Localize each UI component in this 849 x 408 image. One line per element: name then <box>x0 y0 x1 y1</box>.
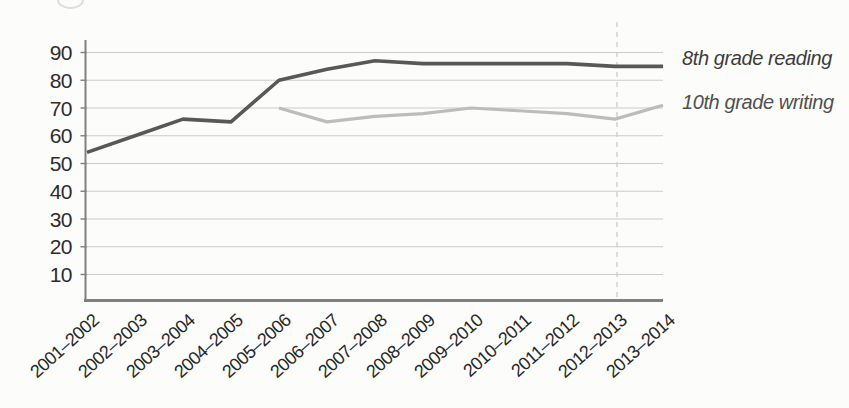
y-axis-label: 60 <box>50 124 72 147</box>
y-axis-label: 80 <box>50 69 72 92</box>
chart-figure: 1020304050607080902001–20022002–20032003… <box>0 0 849 408</box>
y-axis-label: 90 <box>50 41 72 64</box>
y-axis-label: 40 <box>50 180 72 203</box>
y-axis-label: 50 <box>50 152 72 175</box>
series-line-0 <box>87 61 663 153</box>
y-axis-label: 30 <box>50 208 72 231</box>
y-axis-label: 20 <box>50 235 72 258</box>
legend-10th-grade-writing: 10th grade writing <box>682 91 834 113</box>
y-axis-label: 70 <box>50 97 72 120</box>
legend-8th-grade-reading: 8th grade reading <box>682 47 832 69</box>
y-axis-label: 10 <box>50 263 72 286</box>
